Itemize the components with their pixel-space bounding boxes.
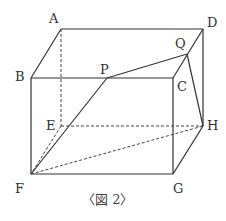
edge-AB	[31, 29, 61, 78]
vertex-label-p: P	[100, 63, 109, 76]
vertex-label-c: C	[177, 80, 187, 93]
vertex-label-d: D	[207, 16, 217, 29]
vertex-label-f: F	[15, 182, 24, 195]
vertex-label-a: A	[49, 12, 58, 25]
vertex-label-g: G	[173, 182, 183, 195]
vertex-label-h: H	[207, 119, 218, 132]
figure-caption: 〈図 2〉	[82, 189, 133, 208]
vertex-label-e: E	[46, 119, 56, 132]
figure-canvas: A D B P Q C E H F G 〈図 2〉	[0, 0, 226, 221]
vertex-label-q: Q	[175, 37, 186, 50]
cuboid-diagram	[0, 0, 226, 221]
vertex-label-b: B	[15, 70, 25, 83]
segment-QH	[187, 54, 203, 126]
